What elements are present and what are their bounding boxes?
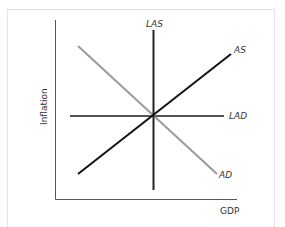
las-label: LAS bbox=[146, 19, 163, 29]
as-label: AS bbox=[233, 45, 246, 55]
y-axis-label: Inflation bbox=[39, 88, 49, 125]
lad-label: LAD bbox=[229, 111, 247, 121]
x-axis-label: GDP bbox=[220, 206, 240, 216]
ad-label: AD bbox=[218, 170, 232, 180]
ad-as-chart: LAS AS LAD AD GDP Inflation bbox=[0, 0, 285, 227]
ad-line bbox=[78, 46, 217, 174]
